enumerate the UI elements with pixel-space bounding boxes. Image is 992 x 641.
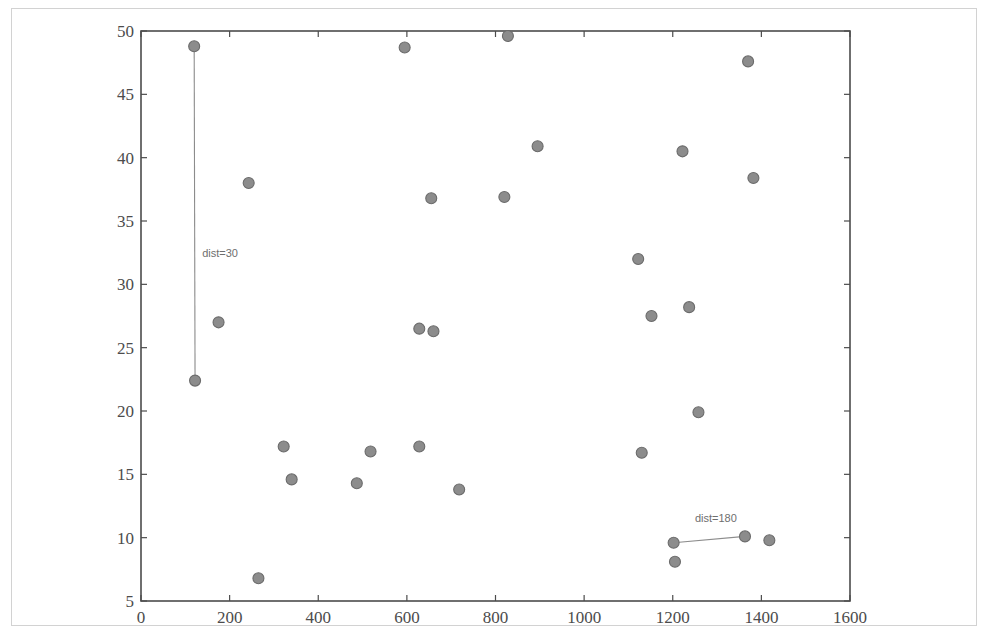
- scatter-plot-canvas: (120, 48.8)(175, 27)(122, 22.4)(243, 38)…: [0, 0, 992, 641]
- scatter-point: (1258, 19.9): [693, 407, 704, 418]
- connection-line: [194, 46, 195, 380]
- y-axis-tick-label: 25: [117, 339, 134, 356]
- x-axis-tick-label: 1000: [567, 609, 601, 626]
- scatter-point: (1382, 38.4): [748, 172, 759, 183]
- scatter-point: (120, 48.8): [189, 41, 200, 52]
- x-axis-tick-label: 400: [306, 609, 332, 626]
- y-axis-tick-label: 45: [117, 86, 134, 103]
- scatter-point: (487, 14.3): [351, 478, 362, 489]
- data-points-group: (120, 48.8)(175, 27)(122, 22.4)(243, 38)…: [189, 31, 775, 584]
- y-axis-tick-label: 20: [117, 403, 134, 420]
- y-axis-tick-label: 10: [117, 529, 134, 546]
- scatter-point: (322, 17.2): [278, 441, 289, 452]
- scatter-point: (895, 40.9): [532, 141, 543, 152]
- y-axis-tick-label: 50: [117, 23, 134, 40]
- x-axis-tick-label: 600: [394, 609, 420, 626]
- scatter-point: (243, 38): [243, 178, 254, 189]
- scatter-point: (1363, 10.1): [739, 531, 750, 542]
- tick-marks: [141, 31, 850, 601]
- scatter-point: (595, 48.7): [399, 42, 410, 53]
- scatter-point: (1152, 27.5): [646, 311, 657, 322]
- scatter-point: (1205, 8.1): [669, 556, 680, 567]
- plot-area-border: [141, 31, 850, 601]
- distance-annotation-label: dist=30: [202, 248, 238, 259]
- x-axis-tick-label: 800: [483, 609, 509, 626]
- x-axis-tick-label: 1400: [744, 609, 778, 626]
- scatter-point: (828, 49.6): [502, 31, 513, 42]
- scatter-point: (628, 17.2): [414, 441, 425, 452]
- x-axis-tick-label: 0: [137, 609, 146, 626]
- connection-lines: [194, 46, 745, 543]
- scatter-point: (518, 16.8): [365, 446, 376, 457]
- scatter-point: (660, 26.3): [428, 326, 439, 337]
- scatter-point: (1370, 47.6): [743, 56, 754, 67]
- scatter-point: (1202, 9.6): [668, 537, 679, 548]
- scatter-point: (1237, 28.2): [684, 302, 695, 313]
- scatter-point: (1222, 40.5): [677, 146, 688, 157]
- scatter-point: (265, 6.8): [253, 573, 264, 584]
- scatter-point: (1130, 16.7): [636, 447, 647, 458]
- x-axis-tick-label: 200: [217, 609, 243, 626]
- scatter-point: (122, 22.4): [190, 375, 201, 386]
- scatter-point: (628, 26.5): [414, 323, 425, 334]
- y-axis-tick-label: 30: [117, 276, 134, 293]
- y-axis-tick-label: 40: [117, 149, 134, 166]
- axes-spines: [141, 31, 850, 601]
- scatter-point: (340, 14.6): [286, 474, 297, 485]
- x-axis-tick-label: 1200: [656, 609, 690, 626]
- scatter-point: (175, 27): [213, 317, 224, 328]
- scatter-point: (718, 13.8): [454, 484, 465, 495]
- y-axis-tick-label: 35: [117, 213, 134, 230]
- connection-line: [674, 536, 745, 542]
- distance-annotation-label: dist=180: [695, 513, 737, 524]
- y-axis-tick-label: 5: [126, 593, 135, 610]
- scatter-point: (655, 36.8): [426, 193, 437, 204]
- y-axis-tick-label: 15: [117, 466, 134, 483]
- x-axis-tick-label: 1600: [833, 609, 867, 626]
- scatter-point: (1122, 32): [633, 254, 644, 265]
- scatter-point: (1418, 9.8): [764, 535, 775, 546]
- scatter-point: (820, 36.9): [499, 191, 510, 202]
